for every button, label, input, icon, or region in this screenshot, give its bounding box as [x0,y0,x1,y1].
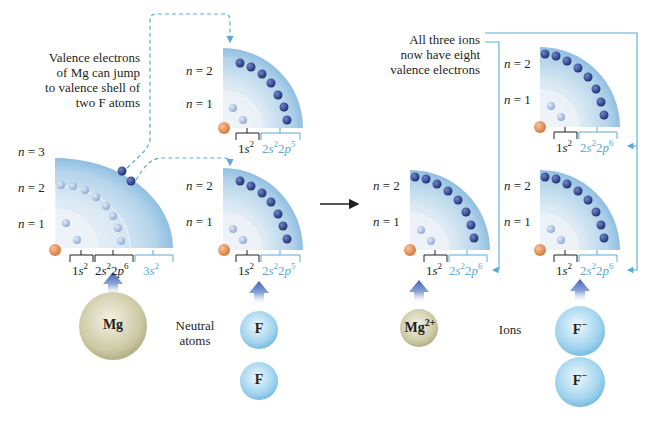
f-ion-top-shell-label-n1: n = 1 [504,92,531,108]
f-top-shell-label-n1: n = 1 [186,96,213,112]
left-note: Valence electrons of Mg can jump to vale… [20,50,140,110]
f-top-shell-label-n2: n = 2 [186,63,213,79]
f-ion-up-arrow [570,279,590,303]
mg-ion-config-core: 1s2 [426,263,442,279]
f-bottom-config-valence: 2s22p5 [262,263,296,279]
mg-atom-shells [49,158,173,256]
mg-ion-shell-label-n1: n = 1 [373,214,400,230]
f-bottom-config-core: 1s2 [238,263,254,279]
mg-config-core2: 2s22p6 [95,263,129,279]
neutral-atoms-caption: Neutral atoms [170,318,220,348]
f-top-atom-shells [218,48,303,134]
f-ion-top-shell-label-n2: n = 2 [504,56,531,72]
f-ion-top-config-brackets [554,127,617,139]
f-ion-bottom-config-brackets [554,250,617,262]
f-up-arrow [249,281,269,305]
f-atom-label-2: F [249,372,269,388]
f-ion-bottom-config-valence: 2s22p6 [580,263,614,279]
mg-ion-up-arrow [409,280,429,304]
right-note: All three ions now have eight valence el… [380,32,480,77]
ionic-bonding-diagram: Valence electrons of Mg can jump to vale… [0,0,661,430]
f-bottom-atom-shells [218,168,303,256]
f-ion-bottom-shell-label-n2: n = 2 [504,178,531,194]
f-ion-top-shells [534,47,620,133]
f-ion-bottom-shell-label-n1: n = 1 [504,214,531,230]
f-atom-label-1: F [249,321,269,337]
f-bottom-shell-label-n2: n = 2 [186,178,213,194]
f-ion-top-config-core: 1s2 [556,140,572,156]
f-ion-bottom-config-core: 1s2 [556,263,572,279]
mg-shell-label-n1: n = 1 [18,216,45,232]
mg-atom-label: Mg [93,317,133,333]
mg-ion-label: Mg2+ [397,320,443,336]
mg-shell-label-n3: n = 3 [18,144,45,160]
mg-ion-shell-label-n2: n = 2 [373,178,400,194]
ions-caption: Ions [490,322,530,337]
f-ion-label-2: F− [564,373,596,389]
f-top-config-valence: 2s22p5 [262,141,296,157]
mg-ion-config-valence: 2s22p6 [449,263,483,279]
f-ion-top-config-valence: 2s22p6 [580,140,614,156]
mg-ion-shells [404,170,490,256]
mg-config-valence: 3s2 [143,263,159,279]
electron-transfer-arrow-top [127,14,230,168]
f-ion-bottom-shells [534,170,620,256]
mg-shell-label-n2: n = 2 [18,180,45,196]
electron-transfer-arrow-bottom [136,158,230,180]
f-ion-label-1: F− [564,322,596,338]
mg-config-core1: 1s2 [72,263,88,279]
f-top-config-core: 1s2 [238,141,254,157]
f-bottom-shell-label-n1: n = 1 [186,214,213,230]
